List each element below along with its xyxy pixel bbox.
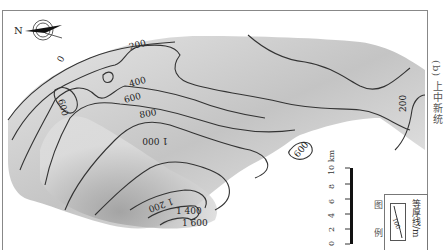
scale-tick-6: 6	[327, 198, 336, 203]
contour-label: 1 400	[176, 206, 202, 216]
scale-tick-8: 8	[327, 184, 336, 189]
scale-tick-2: 2	[327, 227, 336, 232]
isopach-line-icon: 100	[391, 204, 405, 240]
contour-label: 0	[55, 54, 67, 64]
scale-tick-10: 10 km	[327, 150, 336, 175]
contour-label: 200	[398, 95, 408, 112]
figure-caption: (b) 上中新统	[430, 60, 444, 125]
legend-isopach-sample: 100	[390, 203, 406, 241]
legend-label: 等厚线/m	[410, 199, 423, 238]
contour-label: 1 000	[142, 136, 168, 146]
legend: 100 等厚线/m	[384, 194, 428, 250]
svg-text:N: N	[14, 25, 23, 36]
scale-tick-4: 4	[327, 213, 336, 218]
north-arrow-icon: N	[14, 20, 62, 40]
svg-text:100: 100	[392, 217, 403, 230]
scale-bar-labels: 0 2 4 6 8 10 km	[327, 150, 336, 246]
scale-bar	[345, 168, 353, 244]
scale-tick-0: 0	[327, 241, 336, 246]
contour-label: 1 600	[182, 218, 208, 228]
